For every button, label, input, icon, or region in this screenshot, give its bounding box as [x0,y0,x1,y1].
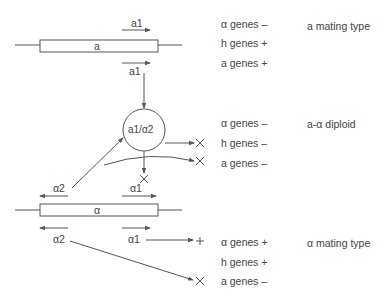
complex-label: a1/α2 [128,124,153,136]
gene-row: a genes + [221,57,267,69]
gene-row: α genes – [221,117,267,129]
gene-row: α genes + [221,236,268,248]
a1-label-bottom: a1 [129,65,141,77]
a-mating-type-label: a mating type [307,20,370,32]
blocked-x-icon-a [196,157,204,165]
diagram-canvas [0,0,384,300]
alpha2-to-x-arrow [70,241,193,280]
gene-row: α genes – [221,18,267,30]
blocked-x-icon-h [196,139,204,147]
gene-row: a genes – [221,157,267,169]
gene-row: h genes – [221,137,267,149]
gene-row: h genes + [221,37,267,49]
a1-label-top: a1 [131,17,143,29]
alpha2-label-upper: α2 [53,182,65,194]
gene-row: a genes – [221,275,267,287]
alpha1-label-upper: α1 [130,182,142,194]
alpha1-label-lower: α1 [128,233,140,245]
alpha-locus-label: α [94,204,100,216]
active-plus-icon [196,237,204,245]
diploid-label: a-α diploid [307,118,356,130]
a-locus-label: a [94,40,100,52]
gene-row: h genes + [221,256,267,268]
alpha2-label-lower: α2 [53,233,65,245]
alpha-mating-type-label: α mating type [307,237,370,249]
alpha2-to-complex-arrow [72,138,123,188]
blocked-x-icon-alpha-a [196,277,204,285]
complex-to-a-arrow [104,156,194,165]
